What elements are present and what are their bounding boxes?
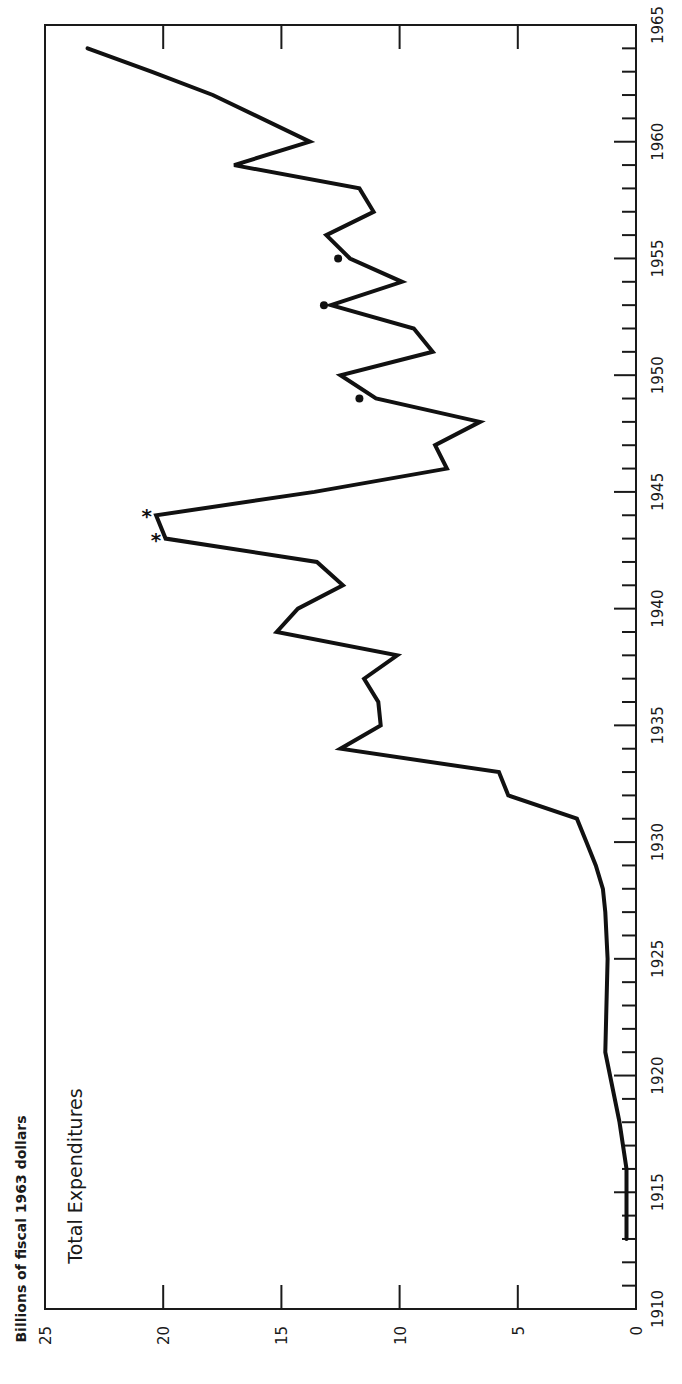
year-tick-label: 1950 [649, 356, 667, 394]
plot-border [45, 25, 636, 1309]
value-tick-label: 25 [37, 1326, 55, 1345]
year-tick-label: 1965 [649, 6, 667, 44]
plot-frame [45, 25, 636, 1309]
value-tick-label: 15 [273, 1326, 291, 1345]
dot-marker [334, 254, 342, 262]
data-line [88, 48, 627, 1239]
year-tick-label: 1945 [649, 473, 667, 511]
year-tick-label: 1920 [649, 1056, 667, 1094]
year-tick-label: 1925 [649, 940, 667, 978]
value-tick-label: 5 [510, 1326, 528, 1336]
year-tick-label: 1960 [649, 123, 667, 161]
value-tick-label: 20 [155, 1326, 173, 1345]
value-tick-label: 10 [392, 1326, 410, 1345]
expenditures-chart: 1910191519201925193019351940194519501955… [0, 0, 682, 1384]
axis-ticks [163, 25, 636, 1309]
year-tick-label: 1940 [649, 590, 667, 628]
year-tick-label: 1930 [649, 823, 667, 861]
series-total-expenditures [88, 48, 627, 1239]
dot-marker [355, 395, 363, 403]
year-tick-label: 1955 [649, 239, 667, 277]
year-tick-label: 1915 [649, 1173, 667, 1211]
year-tick-label: 1935 [649, 706, 667, 744]
dot-marker [320, 301, 328, 309]
annotations: ** [141, 254, 363, 551]
chart-title: Total Expenditures [64, 1088, 86, 1264]
y-axis-label: Billions of fiscal 1963 dollars [13, 1115, 29, 1342]
year-tick-label: 1910 [649, 1290, 667, 1328]
asterisk-marker: * [141, 504, 152, 528]
axis-tick-labels: 1910191519201925193019351940194519501955… [37, 6, 667, 1345]
asterisk-marker: * [151, 528, 162, 552]
value-tick-label: 0 [628, 1326, 646, 1336]
